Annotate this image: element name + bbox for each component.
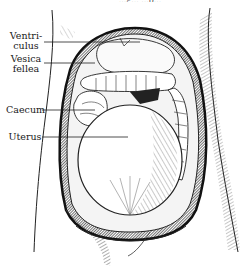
label-uterus: Uterus	[8, 132, 42, 142]
label-line: Uterus	[8, 132, 42, 142]
label-line: fellea	[8, 64, 44, 74]
label-vesica-fellea: Vesica fellea	[8, 54, 44, 74]
label-caecum: Caecum	[6, 105, 42, 115]
label-line: culus	[8, 41, 44, 51]
label-ventriculus: Ventri- culus	[8, 31, 44, 51]
label-line: Caecum	[6, 105, 42, 115]
caption-fragment: ...g... ...p...	[60, 0, 220, 2]
anatomical-illustration: ...g... ...p... Ventri- culus Vesica fel…	[0, 0, 246, 270]
